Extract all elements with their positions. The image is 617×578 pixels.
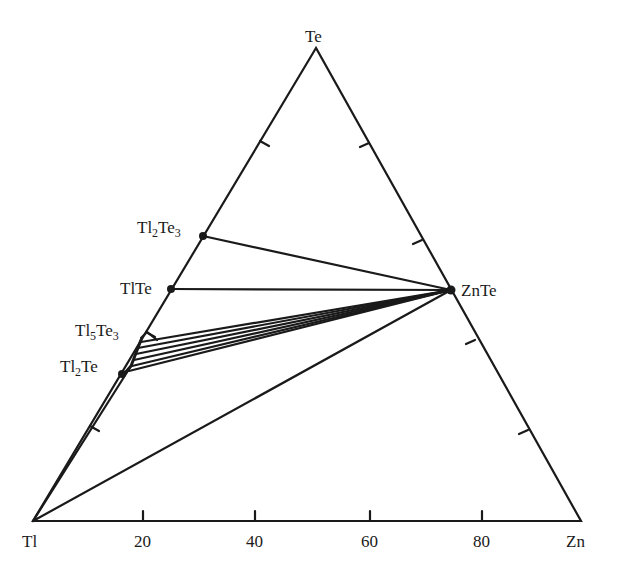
tieline-tl-inner [33, 366, 131, 521]
phase-label-znte: ZnTe [461, 282, 497, 299]
vertex-label-zn: Zn [566, 533, 585, 550]
right-tick-80 [360, 143, 369, 147]
ternary-diagram [0, 0, 617, 578]
vertex-label-te: Te [305, 28, 322, 45]
phase-label-tl5te3: Tl5Te3 [75, 322, 119, 339]
point-znte [447, 286, 456, 295]
base-tick-label-40: 40 [246, 533, 263, 550]
phase-label-tl2te3: Tl2Te3 [137, 219, 181, 236]
phase-label-tl2te: Tl2Te [60, 358, 98, 375]
right-tick-60 [413, 240, 422, 244]
tieline-bundle-6 [129, 290, 451, 371]
phase-label-tlte: TlTe [120, 280, 152, 297]
triangle-frame [33, 48, 581, 521]
right-tick-40 [466, 340, 475, 344]
point-tl2te3 [199, 232, 207, 240]
base-tick-label-80: 80 [473, 533, 490, 550]
base-tick-label-60: 60 [361, 533, 378, 550]
tieline-tlte-znte [171, 289, 451, 290]
point-tlte [167, 285, 175, 293]
vertex-label-tl: Tl [22, 533, 37, 550]
base-tick-label-20: 20 [134, 533, 151, 550]
left-tick-80 [260, 141, 269, 146]
right-tick-20 [519, 430, 528, 434]
point-tl2te [118, 370, 126, 378]
